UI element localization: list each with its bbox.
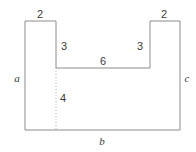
label-right-inner-height: 3 [137,41,143,52]
label-bottom-side: b [99,136,105,147]
label-left-inner-height: 3 [61,41,67,52]
label-top-left-width: 2 [37,9,43,20]
u-shape-outline [25,21,180,130]
geometry-figure: 2 2 3 3 6 4 a c b [0,0,196,152]
label-lower-left-height: 4 [60,93,66,104]
figure-svg [0,0,196,152]
label-right-side: c [185,73,190,84]
label-notch-width: 6 [100,56,106,67]
label-left-side: a [14,73,20,84]
label-top-right-width: 2 [161,9,167,20]
